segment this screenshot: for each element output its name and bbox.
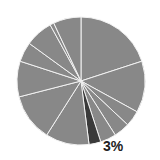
highlight-slice-label: 3% (103, 138, 123, 154)
pie-chart (0, 0, 160, 160)
